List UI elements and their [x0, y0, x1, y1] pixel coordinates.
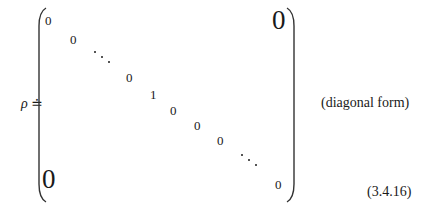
- matrix-entry: 0: [194, 119, 201, 132]
- equation-number: (3.4.16): [367, 185, 411, 199]
- matrix-entry: 0: [217, 134, 224, 147]
- big-zero-lower-left: 0: [42, 166, 56, 193]
- matrix-entry: 0: [170, 104, 177, 117]
- matrix-entry: 0: [45, 14, 52, 27]
- annotation: (diagonal form): [321, 96, 409, 110]
- matrix-entry: 0: [70, 33, 77, 46]
- big-zero-upper-right: 0: [272, 7, 286, 34]
- matrix-entry: 0: [126, 71, 133, 84]
- right-paren: [285, 6, 299, 206]
- matrix-entry: 0: [275, 178, 282, 191]
- matrix-entry: 1: [150, 88, 157, 101]
